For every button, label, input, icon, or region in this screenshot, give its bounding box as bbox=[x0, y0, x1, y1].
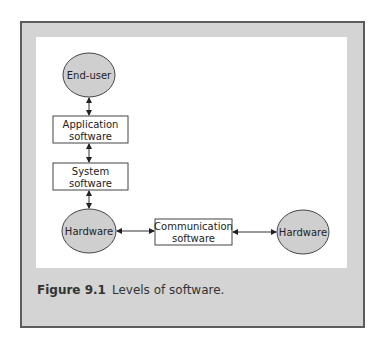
node-application-label-1: Application bbox=[63, 119, 119, 130]
node-hardware-right: Hardware bbox=[277, 210, 329, 254]
node-system-software: System software bbox=[53, 163, 128, 190]
node-system-label-2: software bbox=[69, 178, 112, 189]
node-end-user-label: End-user bbox=[67, 70, 112, 81]
node-application-software: Application software bbox=[53, 116, 128, 143]
node-communication-software: Communication software bbox=[154, 219, 233, 245]
node-hardware-left-label: Hardware bbox=[65, 226, 113, 237]
node-hardware-left: Hardware bbox=[62, 209, 116, 253]
node-communication-label-1: Communication bbox=[154, 221, 233, 232]
node-hardware-right-label: Hardware bbox=[279, 227, 327, 238]
diagram: End-user Application software System sof… bbox=[0, 0, 382, 344]
node-end-user: End-user bbox=[63, 53, 115, 97]
node-application-label-2: software bbox=[69, 131, 112, 142]
node-communication-label-2: software bbox=[172, 233, 215, 244]
node-system-label-1: System bbox=[72, 166, 109, 177]
